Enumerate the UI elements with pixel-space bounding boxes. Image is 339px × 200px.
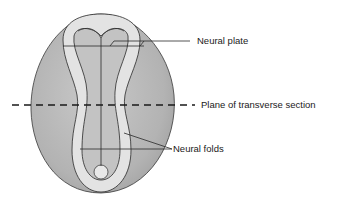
label-neural-plate: Neural plate [197, 36, 248, 46]
label-neural-folds: Neural folds [173, 144, 224, 154]
label-plane-of-transverse-section: Plane of transverse section [201, 100, 316, 110]
primitive-node [94, 165, 108, 179]
